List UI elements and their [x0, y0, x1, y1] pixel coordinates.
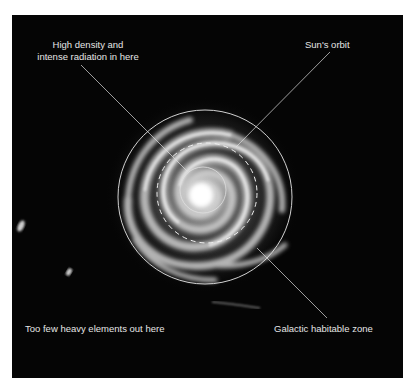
faint-streak [212, 302, 260, 308]
satellite-galaxy [16, 219, 27, 232]
satellite-galaxy [65, 267, 73, 276]
core-label-line1: High density and [28, 39, 148, 51]
core-label-line2: intense radiation in here [28, 51, 148, 63]
sun-orbit-leader-line [236, 52, 330, 147]
galactic-core [189, 183, 213, 207]
habitable-zone-label: Galactic habitable zone [274, 323, 373, 335]
core-label: High density and intense radiation in he… [28, 39, 148, 63]
habitable-zone-leader-line [257, 248, 327, 318]
sun-orbit-label: Sun's orbit [305, 39, 350, 51]
outer-region-label: Too few heavy elements out here [25, 323, 164, 335]
